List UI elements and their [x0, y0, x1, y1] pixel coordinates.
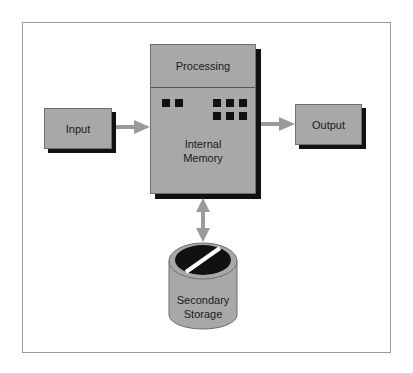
output-label: Output — [312, 119, 345, 131]
memory-cell-icon — [239, 99, 247, 107]
memory-cell-icon — [213, 112, 221, 120]
processing-label: Processing — [176, 60, 230, 72]
internal-memory-label-line1: Internal — [151, 137, 255, 151]
memory-cell-icon — [239, 112, 247, 120]
secondary-storage-label: Secondary Storage — [169, 293, 237, 321]
secondary-storage-label-line1: Secondary — [169, 293, 237, 307]
memory-cell-icon — [213, 99, 221, 107]
internal-memory-label: Internal Memory — [151, 137, 255, 165]
memory-cell-icon — [226, 112, 234, 120]
memory-cell-icon — [162, 99, 170, 107]
input-box: Input — [44, 108, 112, 149]
processing-section: Processing — [151, 45, 255, 88]
memory-cell-icon — [175, 99, 183, 107]
output-box: Output — [295, 104, 362, 145]
processing-memory-box: Processing Internal Memory — [150, 44, 256, 194]
secondary-storage-label-line2: Storage — [169, 307, 237, 321]
internal-memory-label-line2: Memory — [151, 151, 255, 165]
input-label: Input — [66, 123, 90, 135]
memory-cell-icon — [226, 99, 234, 107]
